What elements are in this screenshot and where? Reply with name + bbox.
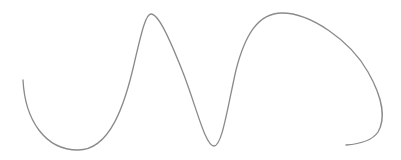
drawing-canvas xyxy=(0,0,401,160)
freehand-curve-drawing xyxy=(0,0,401,160)
curve-stroke xyxy=(23,13,382,150)
